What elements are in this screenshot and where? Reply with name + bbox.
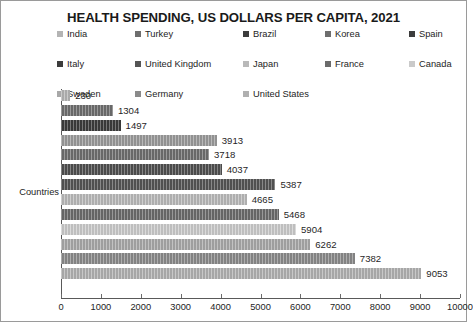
legend-item-label: Brazil (253, 29, 276, 39)
bar-value-label: 3913 (222, 135, 243, 146)
legend-item-spain[interactable]: Spain (409, 29, 443, 39)
bar-japan[interactable] (61, 194, 247, 205)
plot-area: 2301304149739133718403753874665546859046… (61, 89, 459, 297)
bar-value-label: 5468 (284, 209, 305, 220)
x-axis-tick (261, 294, 262, 298)
x-axis-tick-label: 8000 (370, 302, 391, 312)
bar-value-label: 1497 (126, 120, 147, 131)
bar-row: 5468 (61, 209, 305, 220)
x-axis-tick-label: 7000 (330, 302, 351, 312)
bar-row: 230 (61, 90, 91, 101)
x-axis-tick-label: 1000 (91, 302, 112, 312)
bar-row: 4037 (61, 164, 248, 175)
x-axis-tick (340, 294, 341, 298)
bar-turkey[interactable] (61, 105, 113, 116)
legend-item-india[interactable]: India (57, 29, 87, 39)
x-axis-tick (380, 294, 381, 298)
legend-item-label: India (67, 29, 87, 39)
bar-value-label: 1304 (118, 105, 139, 116)
bar-row: 1304 (61, 105, 139, 116)
legend-swatch-icon (409, 31, 415, 37)
x-axis-tick (61, 294, 62, 298)
bar-row: 5904 (61, 224, 322, 235)
bar-canada[interactable] (61, 224, 296, 235)
bar-row: 5387 (61, 179, 302, 190)
legend-item-korea[interactable]: Korea (325, 29, 360, 39)
y-axis-label: Countries (5, 187, 59, 197)
bar-value-label: 230 (75, 90, 91, 101)
bar-united-states[interactable] (61, 268, 421, 279)
legend-swatch-icon (243, 31, 249, 37)
bar-row: 6262 (61, 239, 337, 250)
bar-germany[interactable] (61, 253, 355, 264)
bar-value-label: 4037 (227, 164, 248, 175)
legend-swatch-icon (135, 31, 141, 37)
legend-item-label: Spain (419, 29, 443, 39)
x-axis-tick-label: 6000 (290, 302, 311, 312)
x-axis-tick-label: 5000 (250, 302, 271, 312)
x-axis-tick (221, 294, 222, 298)
bar-india[interactable] (61, 90, 70, 101)
bar-row: 7382 (61, 253, 381, 264)
legend-item-turkey[interactable]: Turkey (135, 29, 173, 39)
bar-value-label: 5904 (301, 224, 322, 235)
bar-value-label: 4665 (252, 194, 273, 205)
bar-row: 4665 (61, 194, 273, 205)
x-axis-tick (141, 294, 142, 298)
bar-value-label: 6262 (315, 239, 336, 250)
bar-france[interactable] (61, 209, 279, 220)
bar-italy[interactable] (61, 164, 222, 175)
bar-row: 1497 (61, 120, 147, 131)
x-axis-tick (300, 294, 301, 298)
legend-row: ItalyUnited KingdomJapanFranceCanada (57, 44, 457, 59)
bar-brazil[interactable] (61, 120, 121, 131)
bar-value-label: 7382 (360, 253, 381, 264)
bar-united-kingdom[interactable] (61, 179, 275, 190)
legend-item-label: Turkey (145, 29, 173, 39)
x-axis-tick-label: 10000 (447, 302, 473, 312)
bar-sweden[interactable] (61, 239, 310, 250)
legend-item-label: Korea (335, 29, 360, 39)
bar-row: 3913 (61, 135, 243, 146)
bar-row: 3718 (61, 149, 235, 160)
bar-value-label: 3718 (214, 149, 235, 160)
x-axis-tick-label: 9000 (410, 302, 431, 312)
chart-legend: IndiaTurkeyBrazilKoreaSpainItalyUnited K… (57, 29, 457, 74)
x-axis-tick (460, 294, 461, 298)
bar-row: 9053 (61, 268, 448, 279)
x-axis-tick-label: 4000 (210, 302, 231, 312)
legend-swatch-icon (57, 31, 63, 37)
x-axis-tick-label: 3000 (170, 302, 191, 312)
legend-swatch-icon (325, 31, 331, 37)
x-axis-tick-label: 0 (58, 302, 63, 312)
chart-title: HEALTH SPENDING, US DOLLARS PER CAPITA, … (1, 10, 466, 25)
bar-korea[interactable] (61, 135, 217, 146)
legend-row: SwedenGermanyUnited States (57, 59, 457, 74)
bar-spain[interactable] (61, 149, 209, 160)
bar-value-label: 9053 (426, 268, 447, 279)
x-axis-tick (101, 294, 102, 298)
legend-row: IndiaTurkeyBrazilKoreaSpain (57, 29, 457, 44)
bar-value-label: 5387 (280, 179, 301, 190)
x-axis-tick (181, 294, 182, 298)
x-axis-line (61, 298, 460, 299)
x-axis-tick-label: 2000 (130, 302, 151, 312)
x-axis-tick (420, 294, 421, 298)
legend-item-brazil[interactable]: Brazil (243, 29, 276, 39)
